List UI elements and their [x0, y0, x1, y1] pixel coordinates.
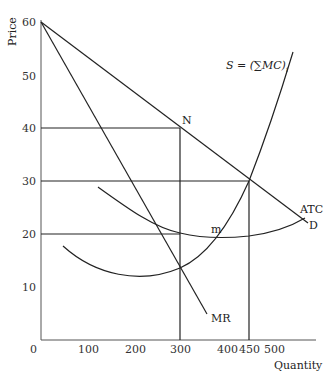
x-tick-0: 0	[30, 343, 37, 356]
x-tick-100: 100	[78, 343, 99, 356]
demand-curve	[41, 22, 308, 223]
y-tick-40: 40	[22, 122, 36, 135]
diagram-canvas: Price 60 50 40 30 20 10 0 100 200 300 40…	[0, 0, 335, 387]
x-tick-450: 450	[239, 343, 260, 356]
mr-label: MR	[211, 312, 231, 325]
y-tick-10: 10	[22, 281, 36, 294]
x-tick-200: 200	[125, 343, 146, 356]
marginal-revenue-curve	[41, 22, 207, 314]
point-m-label: m	[211, 223, 222, 236]
y-axis-label: Price	[6, 17, 19, 46]
x-tick-400: 400	[217, 343, 238, 356]
x-tick-300: 300	[170, 343, 191, 356]
supply-mc-curve	[63, 52, 293, 276]
y-tick-20: 20	[22, 228, 36, 241]
x-axis-label: Quantity	[274, 359, 323, 372]
y-tick-30: 30	[22, 175, 36, 188]
x-tick-500: 500	[264, 343, 285, 356]
atc-label: ATC	[299, 203, 323, 216]
monopoly-cost-diagram: Price 60 50 40 30 20 10 0 100 200 300 40…	[0, 0, 335, 387]
demand-label: D	[309, 219, 318, 232]
supply-label: S = (∑MC)i	[226, 59, 288, 74]
y-tick-60: 60	[22, 16, 36, 29]
atc-curve	[98, 187, 305, 238]
point-n-label: N	[182, 114, 192, 127]
y-tick-50: 50	[22, 70, 36, 83]
